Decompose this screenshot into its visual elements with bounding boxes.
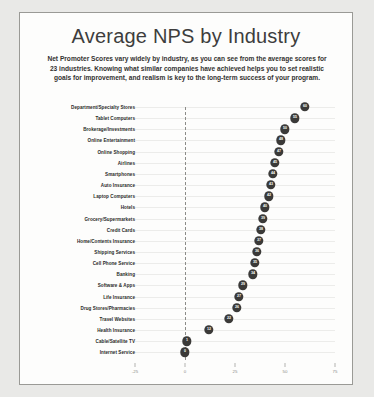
category-label: Health Insurance bbox=[97, 328, 135, 333]
category-label: Cell Phone Service bbox=[93, 261, 135, 266]
data-point-marker[interactable]: 12 bbox=[204, 325, 213, 334]
gridline bbox=[135, 252, 335, 253]
category-label: Brokerage/Investments bbox=[83, 127, 135, 132]
category-label: Smartphones bbox=[105, 171, 135, 176]
data-point-marker[interactable]: 22 bbox=[224, 314, 233, 323]
data-point-marker[interactable]: 45 bbox=[270, 158, 279, 167]
gridline bbox=[135, 118, 335, 119]
gridline bbox=[135, 174, 335, 175]
gridline bbox=[135, 319, 335, 320]
category-label: Home/Contents Insurance bbox=[77, 238, 135, 243]
category-label: Credit Cards bbox=[107, 227, 135, 232]
category-label: Drug Stores/Pharmacies bbox=[81, 305, 135, 310]
gridline bbox=[135, 196, 335, 197]
category-label: Shipping Services bbox=[94, 249, 135, 254]
data-point-marker[interactable]: 50 bbox=[280, 125, 289, 134]
category-label: Hotels bbox=[121, 205, 135, 210]
category-label: Internet Service bbox=[100, 350, 135, 355]
x-axis-tick-label: 75 bbox=[333, 369, 338, 374]
x-axis-tick-label: 25 bbox=[233, 369, 238, 374]
data-point-marker[interactable]: 35 bbox=[250, 258, 259, 267]
data-point-marker[interactable]: 42 bbox=[264, 191, 273, 200]
gridline bbox=[135, 129, 335, 130]
data-point-marker[interactable]: 48 bbox=[276, 136, 285, 145]
category-label: Tablet Computers bbox=[95, 116, 135, 121]
data-point-marker[interactable]: 34 bbox=[248, 270, 257, 279]
category-label: Laptop Computers bbox=[93, 194, 135, 199]
gridline bbox=[135, 207, 335, 208]
category-label: Banking bbox=[117, 272, 135, 277]
data-point-marker[interactable]: 55 bbox=[290, 113, 299, 122]
data-point-marker[interactable]: 60 bbox=[300, 102, 309, 111]
gridline bbox=[135, 263, 335, 264]
chart-card: Average NPS by Industry Net Promoter Sco… bbox=[19, 12, 353, 385]
gridline bbox=[135, 352, 335, 353]
data-point-marker[interactable]: 1 bbox=[182, 336, 191, 345]
data-point-marker[interactable]: 38 bbox=[256, 225, 265, 234]
category-label: Auto Insurance bbox=[101, 183, 135, 188]
gridline bbox=[135, 163, 335, 164]
category-label: Online Shopping bbox=[98, 149, 136, 154]
gridline bbox=[135, 140, 335, 141]
category-label: Airlines bbox=[118, 160, 135, 165]
category-label: Online Entertainment bbox=[88, 138, 135, 143]
plot-area: Department/Specialty StoresTablet Comput… bbox=[20, 101, 353, 385]
zero-reference-line bbox=[185, 107, 186, 360]
data-point-marker[interactable]: 0 bbox=[180, 348, 189, 357]
x-axis-tick bbox=[185, 363, 186, 367]
x-axis-tick-label: -25 bbox=[132, 369, 138, 374]
gridline bbox=[135, 241, 335, 242]
category-label: Grocery/Supermarkets bbox=[84, 216, 135, 221]
gridline bbox=[135, 185, 335, 186]
gridline bbox=[135, 330, 335, 331]
data-point-marker[interactable]: 36 bbox=[252, 247, 261, 256]
gridline bbox=[135, 152, 335, 153]
chart-subtitle: Net Promoter Scores vary widely by indus… bbox=[46, 54, 328, 83]
data-point-marker[interactable]: 43 bbox=[266, 180, 275, 189]
x-axis-tick bbox=[235, 363, 236, 367]
category-label: Travel Websites bbox=[100, 316, 135, 321]
category-label: Life Insurance bbox=[103, 294, 135, 299]
gridline bbox=[135, 285, 335, 286]
category-label: Department/Specialty Stores bbox=[71, 105, 135, 110]
x-axis-tick-label: 0 bbox=[184, 369, 186, 374]
gridline bbox=[135, 230, 335, 231]
data-point-marker[interactable]: 40 bbox=[260, 203, 269, 212]
data-point-marker[interactable]: 29 bbox=[238, 281, 247, 290]
gridline bbox=[135, 341, 335, 342]
x-axis-tick bbox=[335, 363, 336, 367]
gridline bbox=[135, 219, 335, 220]
data-point-marker[interactable]: 37 bbox=[254, 236, 263, 245]
data-point-marker[interactable]: 26 bbox=[232, 303, 241, 312]
data-point-marker[interactable]: 44 bbox=[268, 169, 277, 178]
data-point-marker[interactable]: 39 bbox=[258, 214, 267, 223]
category-label: Cable/Satellite TV bbox=[96, 339, 135, 344]
x-axis-tick bbox=[135, 363, 136, 367]
gridline bbox=[135, 274, 335, 275]
chart-title: Average NPS by Industry bbox=[20, 25, 352, 48]
x-axis-tick bbox=[285, 363, 286, 367]
data-point-marker[interactable]: 47 bbox=[274, 147, 283, 156]
data-point-marker[interactable]: 27 bbox=[234, 292, 243, 301]
x-axis-tick-label: 50 bbox=[283, 369, 288, 374]
category-label: Software & Apps bbox=[98, 283, 135, 288]
